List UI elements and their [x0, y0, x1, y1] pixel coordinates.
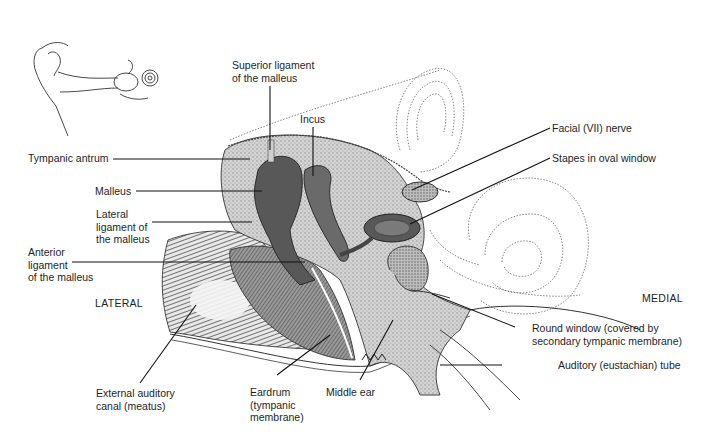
- label-stapes: Stapes in oval window: [552, 152, 656, 165]
- label-external-canal: External auditory canal (meatus): [96, 387, 175, 412]
- label-round-window: Round window (covered by secondary tympa…: [532, 322, 682, 347]
- label-auditory-tube: Auditory (eustachian) tube: [558, 359, 681, 372]
- facial-nerve-shape: [402, 182, 438, 202]
- label-eardrum: Eardrum (tympanic membrane): [250, 386, 304, 424]
- label-middle-ear: Middle ear: [326, 386, 375, 399]
- label-lateral-ligament: Lateral ligament of the malleus: [96, 208, 150, 246]
- label-anterior-ligament: Anterior ligament of the malleus: [28, 246, 93, 284]
- orientation-lateral: LATERAL: [95, 297, 143, 309]
- ear-overview-inset-icon: [34, 43, 158, 137]
- orientation-medial: MEDIAL: [642, 292, 683, 304]
- label-malleus: Malleus: [95, 185, 131, 198]
- label-tympanic-antrum: Tympanic antrum: [28, 152, 109, 165]
- label-facial-nerve: Facial (VII) nerve: [552, 122, 632, 135]
- label-superior-ligament: Superior ligament of the malleus: [232, 59, 314, 84]
- label-incus: Incus: [300, 113, 325, 126]
